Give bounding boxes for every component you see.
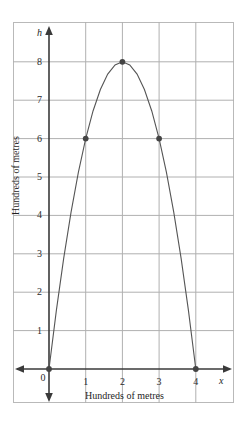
data-point-2-8	[120, 59, 126, 65]
y-axis-label: Hundreds of metres	[10, 131, 21, 221]
y-axis-name: h	[37, 28, 42, 38]
x-axis-label: Hundreds of metres	[0, 390, 249, 401]
y-tick-label-3: 3	[28, 249, 42, 259]
y-tick-label-1: 1	[28, 326, 42, 336]
x-axis-left-arrowhead	[15, 365, 24, 373]
y-tick-label-2: 2	[28, 287, 42, 297]
x-tick-label-4: 4	[189, 377, 203, 387]
horizontal-gridlines	[13, 62, 234, 331]
axes	[15, 26, 232, 402]
data-point-0-0	[46, 366, 52, 372]
figure: 12345678 01234 h x Hundreds of metres Hu…	[0, 0, 249, 422]
y-tick-label-4: 4	[28, 210, 42, 220]
x-tick-label-1: 1	[79, 377, 93, 387]
x-axis-name: x	[219, 376, 223, 386]
vertical-gridlines	[86, 22, 196, 403]
x-tick-label-2: 2	[115, 377, 129, 387]
x-tick-label-3: 3	[152, 377, 166, 387]
data-point-4-0	[193, 366, 199, 372]
y-tick-label-8: 8	[28, 57, 42, 67]
y-tick-label-7: 7	[28, 95, 42, 105]
data-point-1-6	[83, 136, 89, 142]
x-axis-right-arrowhead	[223, 365, 232, 373]
y-tick-label-5: 5	[28, 172, 42, 182]
y-axis-up-arrowhead	[45, 26, 53, 35]
y-tick-label-6: 6	[28, 134, 42, 144]
data-point-3-6	[156, 136, 162, 142]
x-tick-label-0: 0	[36, 373, 50, 383]
